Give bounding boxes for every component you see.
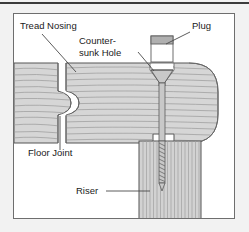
riser-part	[139, 141, 201, 218]
label-floor-joint: Floor Joint	[28, 147, 73, 158]
label-riser: Riser	[76, 185, 98, 196]
screw-shank	[159, 83, 165, 141]
label-plug: Plug	[192, 20, 211, 31]
plug-top-band	[151, 36, 173, 44]
top-divider-rule	[0, 2, 249, 4]
label-countersunk-hole-line2: sunk Hole	[79, 47, 121, 58]
diagram-panel: Tread Nosing Counter- sunk Hole Plug Flo…	[13, 13, 235, 219]
stair-tread-assembly-diagram: Tread Nosing Counter- sunk Hole Plug Flo…	[14, 14, 234, 218]
figure-root: Tread Nosing Counter- sunk Hole Plug Flo…	[0, 0, 249, 232]
label-countersunk-hole-line1: Counter-	[79, 35, 116, 46]
tread-part	[64, 63, 219, 143]
label-tread-nosing: Tread Nosing	[20, 20, 77, 31]
screw-threads	[159, 141, 165, 191]
